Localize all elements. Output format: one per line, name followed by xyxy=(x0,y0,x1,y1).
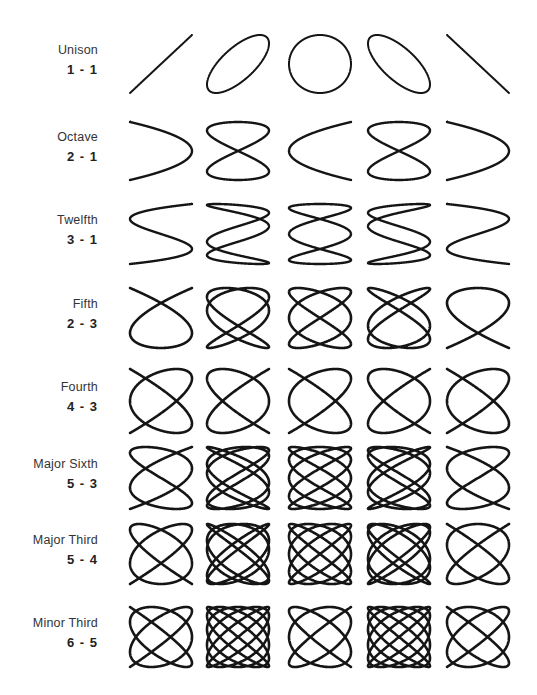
lissajous-figure xyxy=(287,33,353,95)
lissajous-figure xyxy=(287,445,353,511)
interval-name: Major Sixth xyxy=(0,456,98,472)
interval-row: Major Third5 - 4 xyxy=(0,522,537,586)
interval-label: Unison1 - 1 xyxy=(0,42,98,79)
interval-name: Major Third xyxy=(0,532,98,548)
lissajous-figure xyxy=(445,605,511,669)
lissajous-figure xyxy=(205,522,271,586)
lissajous-figure xyxy=(128,120,194,182)
lissajous-figure xyxy=(287,367,353,435)
lissajous-figure xyxy=(287,605,353,669)
lissajous-figure xyxy=(205,202,271,266)
lissajous-figure xyxy=(128,286,194,350)
lissajous-figure xyxy=(128,605,194,669)
interval-ratio: 3 - 1 xyxy=(0,231,98,249)
lissajous-figure xyxy=(366,367,432,435)
lissajous-figure xyxy=(128,522,194,586)
interval-name: Twelfth xyxy=(0,212,98,228)
interval-row: Major Sixth5 - 3 xyxy=(0,445,537,511)
lissajous-figure xyxy=(445,367,511,435)
interval-row: Minor Third6 - 5 xyxy=(0,605,537,669)
lissajous-figure xyxy=(445,120,511,182)
lissajous-figure xyxy=(366,120,432,182)
interval-name: Fourth xyxy=(0,379,98,395)
interval-row: Fifth2 - 3 xyxy=(0,286,537,350)
interval-ratio: 4 - 3 xyxy=(0,398,98,416)
lissajous-figure xyxy=(205,286,271,350)
interval-ratio: 5 - 3 xyxy=(0,475,98,493)
lissajous-figure xyxy=(445,522,511,586)
interval-label: Minor Third6 - 5 xyxy=(0,615,98,652)
lissajous-figure xyxy=(287,202,353,266)
interval-name: Fifth xyxy=(0,296,98,312)
interval-row: Twelfth3 - 1 xyxy=(0,202,537,266)
lissajous-figure xyxy=(366,522,432,586)
lissajous-figure xyxy=(205,445,271,511)
lissajous-figure xyxy=(205,367,271,435)
lissajous-figure xyxy=(366,33,432,95)
lissajous-figure xyxy=(366,445,432,511)
lissajous-figure xyxy=(128,445,194,511)
interval-row: Unison1 - 1 xyxy=(0,33,537,95)
lissajous-figure xyxy=(205,120,271,182)
interval-label: Major Sixth5 - 3 xyxy=(0,456,98,493)
interval-label: Fifth2 - 3 xyxy=(0,296,98,333)
lissajous-figure xyxy=(128,33,194,95)
interval-row: Fourth4 - 3 xyxy=(0,367,537,435)
interval-row: Octave2 - 1 xyxy=(0,120,537,182)
lissajous-figure xyxy=(445,445,511,511)
lissajous-figure xyxy=(128,202,194,266)
lissajous-figure xyxy=(128,367,194,435)
lissajous-figure xyxy=(445,202,511,266)
lissajous-figure xyxy=(445,286,511,350)
lissajous-figure xyxy=(287,120,353,182)
interval-ratio: 5 - 4 xyxy=(0,551,98,569)
lissajous-figure xyxy=(366,605,432,669)
interval-ratio: 1 - 1 xyxy=(0,61,98,79)
interval-ratio: 6 - 5 xyxy=(0,634,98,652)
interval-label: Major Third5 - 4 xyxy=(0,532,98,569)
lissajous-figure xyxy=(287,286,353,350)
interval-ratio: 2 - 1 xyxy=(0,148,98,166)
interval-name: Unison xyxy=(0,42,98,58)
lissajous-figure xyxy=(445,33,511,95)
lissajous-figure xyxy=(366,286,432,350)
interval-label: Fourth4 - 3 xyxy=(0,379,98,416)
lissajous-figure xyxy=(205,605,271,669)
lissajous-figure xyxy=(287,522,353,586)
interval-label: Octave2 - 1 xyxy=(0,129,98,166)
interval-label: Twelfth3 - 1 xyxy=(0,212,98,249)
interval-name: Minor Third xyxy=(0,615,98,631)
interval-ratio: 2 - 3 xyxy=(0,315,98,333)
lissajous-figure xyxy=(205,33,271,95)
interval-name: Octave xyxy=(0,129,98,145)
lissajous-figure xyxy=(366,202,432,266)
